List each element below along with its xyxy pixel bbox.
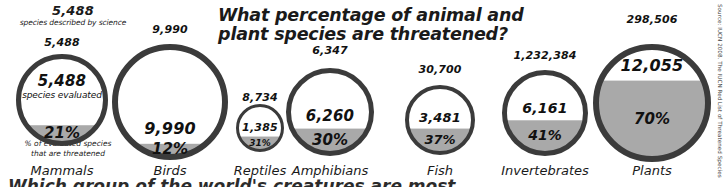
pie-mammals: 5,488species evaluated21% — [13, 51, 111, 149]
pie-amphibians: 6,26030% — [283, 65, 377, 159]
pie-invertebrates: 6,16141% — [499, 67, 591, 159]
threatened-species-infographic: What percentage of animal and plant spec… — [0, 0, 726, 187]
described-count-amphibians: 6,347 — [260, 44, 400, 57]
page-title: What percentage of animal and plant spec… — [218, 6, 508, 44]
annotation-described-number: 5,488 — [8, 4, 138, 18]
pie-fish: 3,48137% — [402, 82, 478, 158]
source-credit-text: Source: IUCN 2008. The IUCN Red List of … — [717, 4, 723, 178]
title-line-1: What percentage of animal and — [218, 6, 508, 25]
pie-plants: 12,05570% — [590, 41, 714, 165]
cutoff-headline: Which group of the world's creatures are… — [8, 176, 455, 187]
described-count-birds: 9,990 — [100, 23, 240, 36]
category-label-plants: Plants — [582, 163, 722, 178]
described-count-fish: 30,700 — [370, 63, 510, 76]
described-count-plants: 298,506 — [582, 13, 722, 26]
pie-reptiles: 1,38531% — [233, 101, 287, 155]
source-credit: Source: IUCN 2008. The IUCN Red List of … — [712, 0, 726, 187]
title-line-2: plant species are threatened? — [218, 25, 508, 44]
